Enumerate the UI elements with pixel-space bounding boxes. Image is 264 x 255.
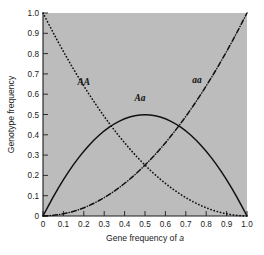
y-axis-tick-label: 0.7 xyxy=(28,70,40,79)
curve-label-AA: AA xyxy=(77,77,91,87)
x-axis-tick-label: 0.5 xyxy=(139,220,151,229)
y-axis-tick-label: 0.6 xyxy=(28,90,40,99)
y-axis-tick-label: 0.9 xyxy=(28,29,40,38)
chart-canvas: 00.10.20.30.40.50.60.70.80.91.000.10.20.… xyxy=(0,0,264,255)
genotype-frequency-chart: 00.10.20.30.40.50.60.70.80.91.000.10.20.… xyxy=(0,0,264,255)
x-axis-tick-label: 0.2 xyxy=(78,220,90,229)
x-axis-tick-label: 0.6 xyxy=(160,220,172,229)
x-axis-tick-label: 0.9 xyxy=(221,220,233,229)
x-axis-tick-label: 0.1 xyxy=(58,220,70,229)
y-axis-tick-label: 1.0 xyxy=(28,9,40,18)
x-axis-tick-label: 0.7 xyxy=(180,220,192,229)
y-axis-tick-label: 0.4 xyxy=(28,131,40,140)
y-axis-tick-label: 0.2 xyxy=(28,171,40,180)
x-axis-tick-label: 0 xyxy=(41,220,46,229)
x-axis-tick-label: 0.3 xyxy=(99,220,111,229)
y-axis-tick-label: 0 xyxy=(34,212,39,221)
y-axis-tick-label: 0.3 xyxy=(28,151,40,160)
y-axis-title: Genotype frequency xyxy=(6,75,16,153)
x-axis-tick-label: 1.0 xyxy=(241,220,253,229)
y-axis-tick-label: 0.5 xyxy=(28,111,40,120)
x-axis-tick-label: 0.4 xyxy=(119,220,131,229)
curve-label-Aa: Aa xyxy=(133,93,145,103)
curve-label-aa: aa xyxy=(192,75,202,85)
x-axis-title-allele: a xyxy=(179,233,184,243)
y-axis-tick-label: 0.1 xyxy=(28,192,40,201)
x-axis-tick-label: 0.8 xyxy=(201,220,213,229)
x-axis-title: Gene frequency of a xyxy=(106,233,184,243)
y-axis-tick-label: 0.8 xyxy=(28,50,40,59)
